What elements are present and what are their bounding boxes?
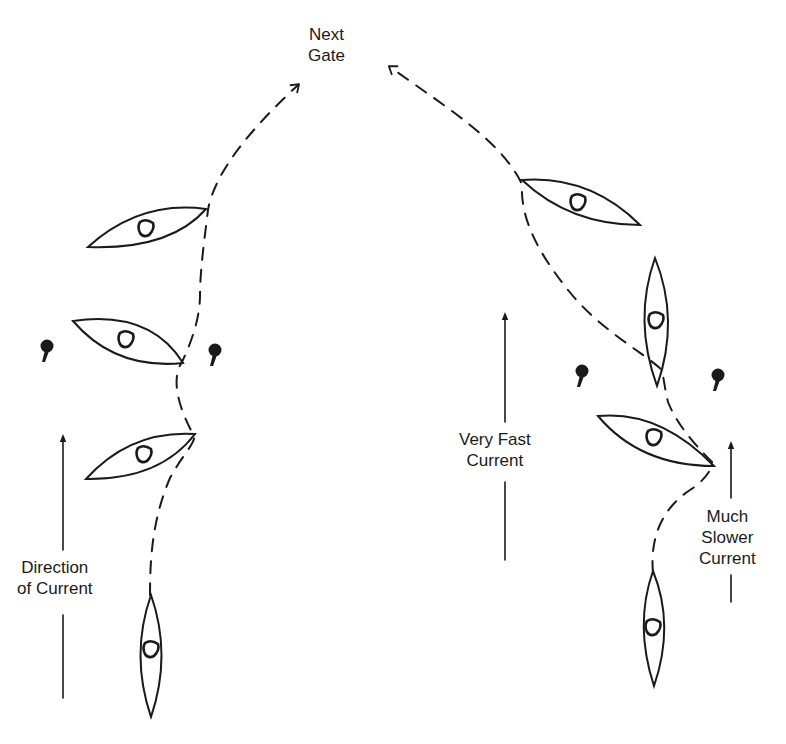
- right-boat-gate: [644, 258, 668, 386]
- left-scenario: [41, 85, 299, 717]
- right-gate-pole-right-icon: [712, 369, 725, 392]
- left-boat-gate: [73, 319, 183, 364]
- slower-line1: Much: [699, 506, 756, 527]
- left-gate-pole-left-icon: [41, 340, 54, 363]
- right-boat-below: [598, 415, 714, 466]
- left-boat-start: [141, 595, 162, 717]
- right-gate-pole-left-icon: [576, 365, 589, 388]
- next-gate-label: Next Gate: [308, 24, 345, 66]
- much-slower-current-label: Much Slower Current: [699, 506, 756, 569]
- direction-line1: Direction: [17, 557, 93, 578]
- gate-crossing-diagram: [0, 0, 786, 744]
- left-boat-below: [86, 434, 195, 479]
- right-scenario: [390, 67, 731, 686]
- very-fast-line1: Very Fast: [459, 429, 531, 450]
- slower-line2: Slower: [699, 527, 756, 548]
- right-boat-start: [644, 571, 665, 686]
- very-fast-line2: Current: [459, 450, 531, 471]
- right-boat-top: [522, 180, 640, 225]
- left-course-path: [150, 85, 298, 595]
- left-gate-pole-right-icon: [209, 344, 222, 367]
- very-fast-current-label: Very Fast Current: [459, 429, 531, 471]
- slower-line3: Current: [699, 548, 756, 569]
- direction-of-current-label: Direction of Current: [17, 557, 93, 599]
- next-gate-line2: Gate: [308, 45, 345, 66]
- direction-line2: of Current: [17, 578, 93, 599]
- next-gate-line1: Next: [308, 24, 345, 45]
- left-boat-top: [88, 208, 206, 248]
